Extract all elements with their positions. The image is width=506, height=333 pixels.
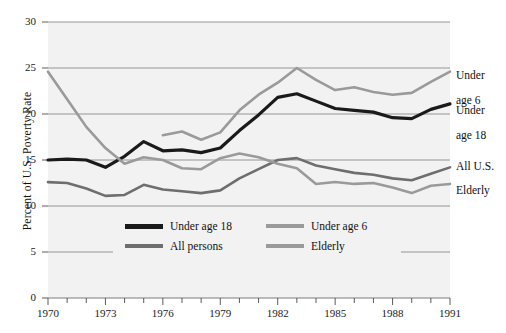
legend-swatch-elderly	[266, 244, 304, 248]
legend-item-all-persons: All persons	[125, 240, 260, 253]
x-axis-tick-label: 1973	[85, 308, 125, 319]
series-label-elderly: Elderly	[456, 184, 490, 197]
series-lines	[48, 68, 450, 196]
x-axis-tick-label: 1991	[430, 308, 470, 319]
legend-swatch-under-age-18	[125, 224, 163, 229]
series-label-under-age-6-line1: Under	[456, 69, 485, 82]
x-axis-tick-label: 1988	[373, 308, 413, 319]
x-axis-ticks	[42, 22, 450, 305]
y-axis-title: Percent of U.S. Poverty Rate	[21, 71, 33, 251]
x-axis-tick-label: 1970	[28, 308, 68, 319]
series-label-under-age-18-line1: Under	[456, 104, 486, 117]
legend: Under age 18 Under age 6 All persons Eld…	[113, 212, 401, 260]
legend-swatch-under-age-6	[266, 224, 304, 228]
x-axis-tick-label: 1976	[143, 308, 183, 319]
legend-swatch-all-persons	[125, 244, 163, 248]
legend-label-under-age-18: Under age 18	[170, 220, 232, 233]
series-label-under-age-18: Under age 18	[456, 91, 486, 154]
legend-label-all-persons: All persons	[170, 240, 223, 253]
poverty-rate-line-chart: 302520151050 197019731976197919821985198…	[0, 0, 506, 333]
y-axis-tick-label: 30	[6, 16, 36, 27]
x-axis-tick-label: 1982	[258, 308, 298, 319]
x-axis-tick-label: 1985	[315, 308, 355, 319]
y-axis-tick-label: 0	[6, 292, 36, 303]
series-label-all-us: All U.S.	[456, 160, 494, 173]
legend-item-elderly: Elderly	[266, 240, 401, 253]
chart-canvas	[0, 0, 506, 333]
x-axis-tick-label: 1979	[200, 308, 240, 319]
series-line-all-persons	[48, 158, 450, 196]
legend-label-under-age-6: Under age 6	[311, 220, 367, 233]
series-line-under-age-6	[163, 68, 450, 140]
legend-item-under-age-6: Under age 6	[266, 220, 401, 233]
legend-label-elderly: Elderly	[311, 240, 345, 253]
legend-item-under-age-18: Under age 18	[125, 220, 260, 233]
series-label-under-age-18-line2: age 18	[456, 129, 486, 142]
